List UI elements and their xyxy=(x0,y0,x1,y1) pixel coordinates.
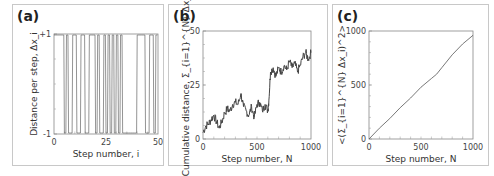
y-tick-label: 50 xyxy=(190,27,200,36)
x-tick-label: 0 xyxy=(200,143,205,152)
x-axis-title-a: Step number, i xyxy=(73,149,140,159)
y-axis-title-c: <(Σ_{i=1}^{N} Δx_i)^2> xyxy=(337,25,347,145)
y-tick-label: 0 xyxy=(361,135,366,144)
y-ticks-b: 02550 xyxy=(190,27,206,144)
y-tick-label: 500 xyxy=(351,81,366,90)
y-tick-label: 0 xyxy=(195,135,200,144)
x-tick-label: 0 xyxy=(51,138,56,147)
x-tick-label: 25 xyxy=(101,138,111,147)
y-tick-label: 25 xyxy=(190,81,200,90)
data-line-c xyxy=(369,35,473,139)
y-tick-label: -1 xyxy=(43,130,51,139)
y-axis-title-a: Distance per step, Δx_i xyxy=(29,32,39,136)
chart-b: 02550 05001000 Step number, N Cumulative… xyxy=(169,5,329,167)
panel-a: (a) -1+1 02550 Step number, i Distance p… xyxy=(12,4,164,166)
x-tick-label: 500 xyxy=(413,143,428,152)
x-tick-label: 0 xyxy=(366,143,371,152)
x-axis-title-b: Step number, N xyxy=(222,154,293,164)
plot-frame-b xyxy=(203,31,311,139)
x-tick-label: 50 xyxy=(153,138,163,147)
panel-c: (c) 05001000 05001000 Step number, N <(Σ… xyxy=(332,4,489,166)
y-ticks-c: 05001000 xyxy=(346,27,372,144)
chart-c: 05001000 05001000 Step number, N <(Σ_{i=… xyxy=(333,5,490,167)
x-tick-label: 1000 xyxy=(463,143,483,152)
x-tick-label: 500 xyxy=(249,143,264,152)
y-tick-label: 1000 xyxy=(346,27,366,36)
chart-a: -1+1 02550 Step number, i Distance per s… xyxy=(13,5,165,167)
data-line-a xyxy=(54,35,157,133)
panel-b: (b) 02550 05001000 Step number, N Cumula… xyxy=(168,4,328,166)
y-tick-label: +1 xyxy=(39,30,51,39)
x-axis-title-c: Step number, N xyxy=(386,154,457,164)
data-line-b xyxy=(203,49,311,132)
x-tick-label: 1000 xyxy=(301,143,321,152)
y-axis-title-b: Cumulative distance, Σ_{i=1}^{N} Δx_i xyxy=(181,0,191,176)
plot-frame-c xyxy=(369,31,473,139)
